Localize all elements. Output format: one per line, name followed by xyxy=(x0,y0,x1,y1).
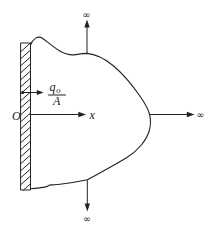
x-axis-arrow-icon xyxy=(30,112,86,117)
wall-hatching-icon xyxy=(21,43,31,190)
down-arrow-icon xyxy=(85,180,90,212)
flux-denominator-label: A xyxy=(52,94,61,108)
origin-label: O xyxy=(12,109,21,123)
up-arrow-icon xyxy=(84,20,89,54)
flux-numerator-label: q xyxy=(50,80,56,94)
infinity-bottom-label: ∞ xyxy=(83,213,91,224)
infinity-right-label: ∞ xyxy=(197,109,205,120)
heat-flux-fraction: q o A xyxy=(49,80,66,108)
x-axis-label: x xyxy=(89,108,96,122)
right-arrow-icon xyxy=(150,112,195,117)
infinity-top-label: ∞ xyxy=(83,9,91,20)
figure-drawing: ∞ ∞ ∞ x O q o A xyxy=(0,0,214,236)
wall xyxy=(21,43,31,190)
semi-infinite-solid-figure: ∞ ∞ ∞ x O q o A xyxy=(0,0,214,236)
